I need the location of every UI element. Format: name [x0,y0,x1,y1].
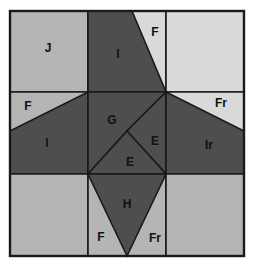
dissection-diagram-svg: J I F F I G E E Fr Ir F H Fr [0,0,254,269]
piece-bottom-left-square [10,174,88,256]
dissection-figure: J I F F I G E E Fr Ir F H Fr [0,0,254,269]
piece-J [10,11,88,92]
piece-top-right-square [166,11,244,92]
piece-bottom-right-square [166,174,244,256]
